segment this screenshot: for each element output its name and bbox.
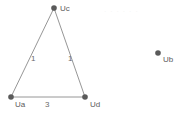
node-label-Ua: Ua bbox=[15, 100, 25, 109]
graph-node-Ud[interactable] bbox=[82, 94, 88, 100]
node-label-Ub: Ub bbox=[163, 55, 173, 64]
edge-weight-label: 1 bbox=[68, 54, 72, 63]
graph-node-Ub[interactable] bbox=[155, 50, 161, 56]
graph-edge bbox=[54, 8, 85, 97]
graph-node-Ua[interactable] bbox=[8, 94, 14, 100]
edge-weight-label: 1 bbox=[31, 54, 35, 63]
node-label-Ud: Ud bbox=[90, 100, 100, 109]
diagram-canvas: · · · · · · 113UcUaUdUb bbox=[0, 0, 188, 117]
graph-edge bbox=[11, 8, 54, 97]
nodes-group bbox=[8, 5, 161, 100]
edge-weight-label: 3 bbox=[45, 100, 49, 109]
graph-node-Uc[interactable] bbox=[51, 5, 57, 11]
node-label-Uc: Uc bbox=[60, 4, 70, 13]
edges-group bbox=[11, 8, 85, 97]
